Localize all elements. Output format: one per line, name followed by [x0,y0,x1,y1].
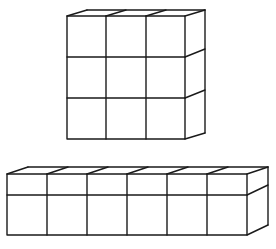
bottom-cube-block [7,167,268,235]
top-cube-block [67,10,205,139]
cube-diagram [0,0,276,249]
